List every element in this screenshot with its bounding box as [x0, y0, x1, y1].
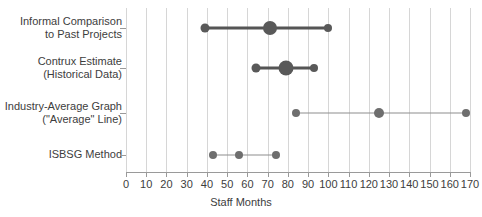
x-tick-60	[247, 172, 248, 177]
data-point-3-mid	[235, 151, 243, 159]
x-tick-110	[349, 172, 350, 177]
x-tick-170	[470, 172, 471, 177]
gridline-40	[207, 8, 208, 172]
x-tick-160	[450, 172, 451, 177]
gridline-110	[349, 8, 350, 172]
gridline-150	[430, 8, 431, 172]
gridline-140	[409, 8, 410, 172]
data-point-2-low	[292, 109, 300, 117]
x-tick-0	[126, 172, 127, 177]
data-point-0-mid	[263, 21, 277, 35]
range-chart: Informal Comparison to Past Projects Con…	[0, 0, 482, 217]
gridline-80	[288, 8, 289, 172]
data-point-1-mid	[278, 61, 293, 76]
x-tick-120	[369, 172, 370, 177]
gridline-60	[247, 8, 248, 172]
data-point-0-low	[200, 24, 209, 33]
x-tick-50	[227, 172, 228, 177]
category-label-0: Informal Comparison to Past Projects	[0, 15, 122, 41]
data-point-0-high	[324, 24, 332, 32]
x-tick-label-170: 170	[457, 178, 482, 190]
gridline-120	[369, 8, 370, 172]
data-point-2-high	[462, 109, 470, 117]
data-point-3-high	[272, 151, 280, 159]
gridline-50	[227, 8, 228, 172]
x-tick-70	[268, 172, 269, 177]
gridline-170	[470, 8, 471, 172]
category-label-2: Industry-Average Graph ("Average" Line)	[0, 100, 122, 126]
x-axis-label: Staff Months	[0, 196, 482, 208]
gridline-20	[166, 8, 167, 172]
data-point-2-mid	[374, 108, 384, 118]
x-tick-140	[409, 172, 410, 177]
category-label-3: ISBSG Method	[0, 148, 122, 161]
gridline-10	[146, 8, 147, 172]
data-point-1-low	[251, 64, 260, 73]
data-point-1-high	[310, 64, 318, 72]
x-axis-spine	[126, 172, 471, 173]
x-tick-90	[308, 172, 309, 177]
gridline-30	[187, 8, 188, 172]
gridline-90	[308, 8, 309, 172]
data-point-3-low	[209, 151, 217, 159]
x-tick-80	[288, 172, 289, 177]
x-tick-150	[430, 172, 431, 177]
category-label-1: Contrux Estimate (Historical Data)	[0, 55, 122, 81]
x-tick-40	[207, 172, 208, 177]
x-tick-130	[389, 172, 390, 177]
x-tick-100	[328, 172, 329, 177]
gridline-100	[328, 8, 329, 172]
gridline-160	[450, 8, 451, 172]
gridline-130	[389, 8, 390, 172]
gridline-0	[126, 8, 127, 172]
x-tick-20	[166, 172, 167, 177]
plot-area	[126, 8, 470, 172]
x-tick-10	[146, 172, 147, 177]
x-tick-30	[187, 172, 188, 177]
range-line-3	[213, 155, 276, 156]
